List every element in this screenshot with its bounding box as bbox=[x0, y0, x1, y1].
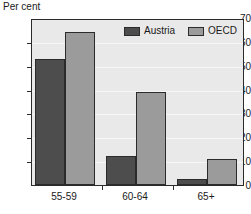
legend-entry-oecd: OECD bbox=[188, 26, 237, 36]
x-axis-tick-label: 55-59 bbox=[51, 191, 77, 202]
legend-swatch-oecd bbox=[188, 27, 204, 36]
x-axis-tick-label: 60-64 bbox=[122, 191, 148, 202]
bar-austria-60-64 bbox=[106, 156, 136, 185]
bar-oecd-55-59 bbox=[65, 32, 95, 185]
x-axis-tick-mark bbox=[173, 186, 174, 190]
bar-oecd-60-64 bbox=[136, 92, 166, 185]
bar-austria-55-59 bbox=[35, 59, 65, 185]
bar-chart: Per cent 010203040506070 Austria OECD 55… bbox=[0, 0, 251, 214]
x-axis-tick-mark bbox=[102, 186, 103, 190]
bar-austria-65+ bbox=[177, 179, 207, 185]
legend-label-austria: Austria bbox=[144, 26, 175, 36]
bar-oecd-65+ bbox=[207, 159, 237, 185]
plot-area: Austria OECD bbox=[31, 19, 244, 186]
x-axis-tick-label: 65+ bbox=[198, 191, 215, 202]
y-axis-title: Per cent bbox=[3, 1, 40, 13]
gridline bbox=[32, 43, 243, 44]
legend-swatch-austria bbox=[124, 27, 140, 36]
legend-label-oecd: OECD bbox=[208, 26, 237, 36]
legend: Austria OECD bbox=[124, 26, 237, 36]
legend-entry-austria: Austria bbox=[124, 26, 175, 36]
